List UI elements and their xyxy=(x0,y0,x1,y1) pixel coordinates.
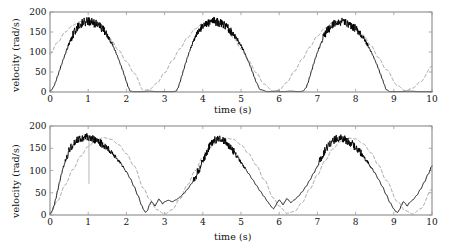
svg-text:0: 0 xyxy=(41,210,47,220)
y-axis-title-top: velocity (rad/s) xyxy=(10,18,21,92)
svg-text:8: 8 xyxy=(353,217,359,227)
svg-text:200: 200 xyxy=(29,7,46,17)
svg-text:8: 8 xyxy=(353,94,359,104)
x-axis-title-bottom: time (s) xyxy=(214,231,252,242)
svg-text:100: 100 xyxy=(29,166,46,176)
chart-panel-bottom: 012345678910050100150200 velocity (rad/s… xyxy=(0,114,450,250)
svg-text:6: 6 xyxy=(276,94,282,104)
svg-text:150: 150 xyxy=(29,143,46,153)
svg-text:2: 2 xyxy=(124,217,130,227)
svg-text:3: 3 xyxy=(162,94,168,104)
svg-text:2: 2 xyxy=(124,94,130,104)
chart-panel-top: 012345678910050100150200 velocity (rad/s… xyxy=(0,0,450,118)
svg-text:50: 50 xyxy=(35,188,47,198)
svg-text:9: 9 xyxy=(391,94,397,104)
svg-text:7: 7 xyxy=(315,217,321,227)
svg-text:100: 100 xyxy=(29,47,46,57)
figure-root: 012345678910050100150200 velocity (rad/s… xyxy=(0,0,450,250)
top-plot-canvas: 012345678910050100150200 xyxy=(0,0,450,118)
svg-text:1: 1 xyxy=(85,217,91,227)
svg-text:4: 4 xyxy=(200,217,206,227)
svg-text:0: 0 xyxy=(47,94,53,104)
svg-text:0: 0 xyxy=(47,217,53,227)
svg-text:50: 50 xyxy=(35,67,47,77)
svg-text:5: 5 xyxy=(238,94,244,104)
svg-text:0: 0 xyxy=(41,87,47,97)
svg-text:1: 1 xyxy=(85,94,91,104)
svg-text:150: 150 xyxy=(29,27,46,37)
svg-text:200: 200 xyxy=(29,121,46,131)
bottom-plot-canvas: 012345678910050100150200 xyxy=(0,114,450,250)
svg-text:6: 6 xyxy=(276,217,282,227)
svg-text:3: 3 xyxy=(162,217,168,227)
svg-text:10: 10 xyxy=(426,217,438,227)
svg-text:10: 10 xyxy=(426,94,438,104)
svg-text:4: 4 xyxy=(200,94,206,104)
svg-text:7: 7 xyxy=(315,94,321,104)
svg-text:9: 9 xyxy=(391,217,397,227)
svg-text:5: 5 xyxy=(238,217,244,227)
y-axis-title-bottom: velocity (rad/s) xyxy=(10,144,21,218)
